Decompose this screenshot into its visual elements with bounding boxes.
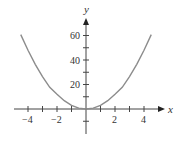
x-tick-label: −4 [22,114,33,125]
y-tick-label: 20 [70,79,80,90]
y-axis-arrow-icon [83,18,89,25]
parabola-chart: x y −4 −2 2 4 20 40 60 [0,0,185,142]
y-tick-label: 60 [70,30,80,41]
x-axis-label: x [167,103,173,115]
x-tick-label: 4 [141,114,146,125]
x-tick-label: −2 [51,114,62,125]
y-tick-label: 40 [70,55,80,66]
y-axis-label: y [83,3,89,15]
x-tick-label: 2 [112,114,117,125]
x-axis-arrow-icon [158,106,165,112]
